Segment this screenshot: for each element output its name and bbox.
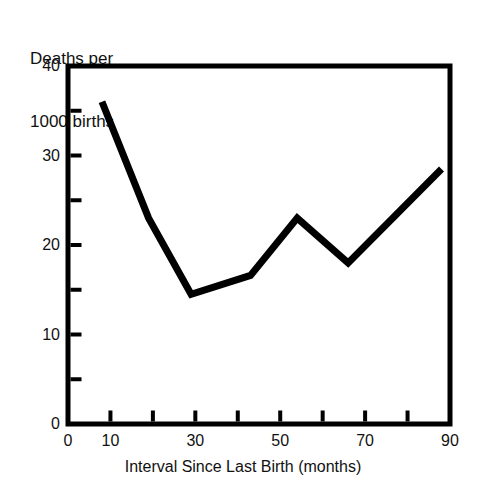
x-axis-title: Interval Since Last Birth (months) (0, 458, 486, 476)
y-axis-ticks (71, 66, 82, 424)
plot-area (0, 0, 486, 496)
axis-frame (68, 66, 450, 424)
x-axis-ticks (68, 411, 450, 422)
y-tick-label: 20 (20, 236, 60, 254)
y-tick-label: 10 (20, 326, 60, 344)
x-tick-label: 10 (102, 432, 120, 450)
x-tick-label: 30 (186, 432, 204, 450)
x-tick-label: 50 (271, 432, 289, 450)
x-tick-label: 70 (356, 432, 374, 450)
y-tick-label: 30 (20, 147, 60, 165)
y-tick-label: 0 (20, 415, 60, 433)
chart-figure: Deaths per 1000 births 010203040 0103050… (0, 0, 486, 496)
data-series-line (102, 102, 442, 294)
y-tick-label: 40 (20, 57, 60, 75)
x-tick-label: 0 (64, 432, 73, 450)
x-tick-label: 90 (441, 432, 459, 450)
